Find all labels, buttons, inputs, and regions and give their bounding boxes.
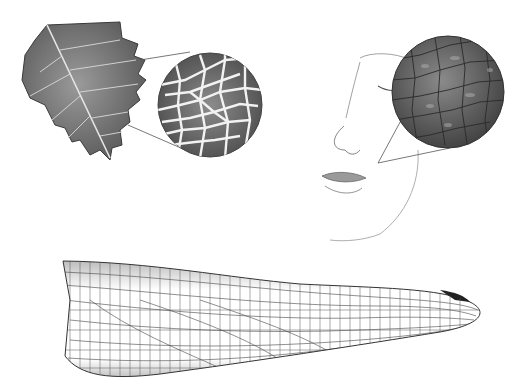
dragonfly-wing-drawing [60, 260, 490, 380]
skin-detail-circle [392, 36, 505, 150]
leaf-drawing [22, 22, 146, 160]
leaf-detail-circle [158, 53, 262, 158]
illustration [0, 0, 515, 387]
